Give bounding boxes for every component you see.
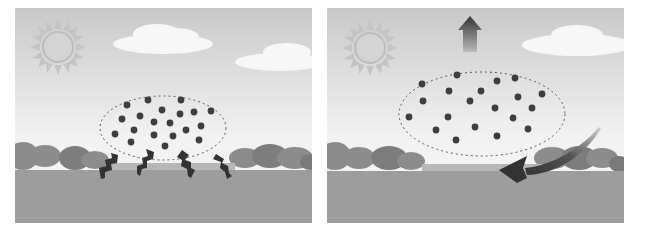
- sun-icon: [342, 20, 398, 76]
- horizon-strip: [105, 163, 235, 171]
- sun-icon: [30, 19, 86, 75]
- panel-left-ground-heating: [15, 8, 312, 223]
- ground: [15, 170, 312, 223]
- panel-right-warm-air-rising: [327, 8, 624, 223]
- ground: [327, 171, 624, 223]
